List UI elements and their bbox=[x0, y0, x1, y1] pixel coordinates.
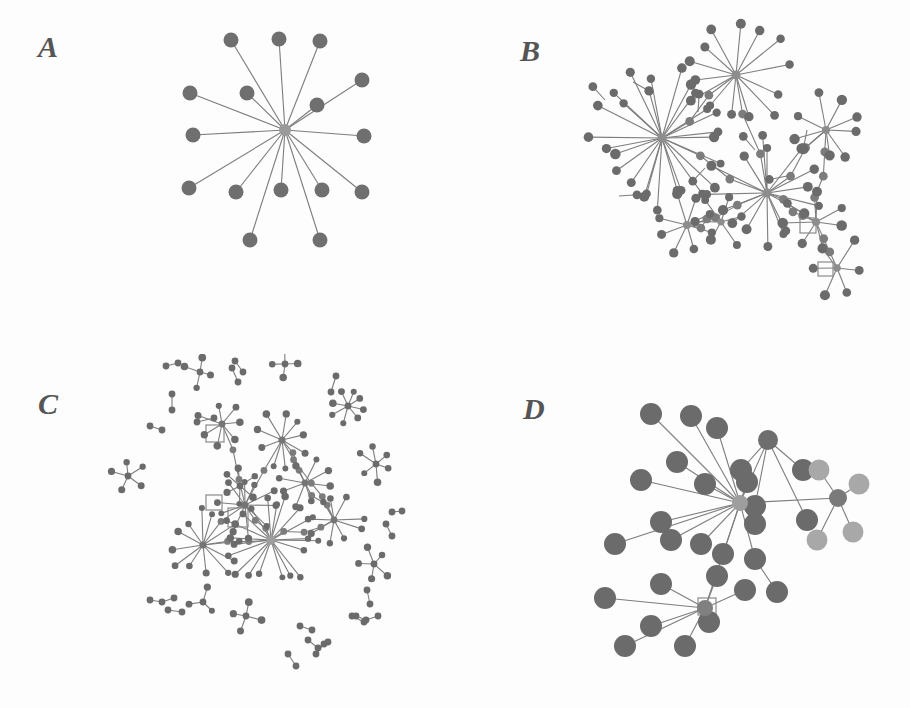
graph-node bbox=[327, 495, 334, 502]
graph-node bbox=[604, 533, 626, 555]
graph-node bbox=[231, 436, 239, 444]
graph-node bbox=[224, 471, 231, 478]
graph-edge bbox=[661, 503, 740, 522]
graph-node bbox=[294, 419, 300, 425]
graph-node bbox=[640, 403, 662, 425]
graph-edge bbox=[271, 540, 300, 577]
graph-node bbox=[619, 99, 627, 107]
graph-hub-node bbox=[732, 495, 748, 511]
graph-node bbox=[614, 635, 636, 657]
graph-node bbox=[147, 597, 154, 604]
panel-b-edges bbox=[588, 24, 859, 295]
graph-node bbox=[309, 627, 316, 634]
graph-node bbox=[610, 89, 618, 97]
graph-edge bbox=[662, 138, 715, 188]
graph-edge bbox=[707, 193, 767, 194]
graph-hub-node bbox=[279, 124, 291, 136]
graph-node bbox=[836, 220, 847, 231]
graph-node bbox=[207, 371, 214, 378]
graph-node bbox=[175, 360, 182, 367]
graph-node bbox=[369, 443, 375, 449]
graph-node bbox=[236, 476, 243, 483]
graph-node bbox=[810, 164, 819, 173]
graph-node bbox=[279, 374, 286, 381]
graph-node bbox=[261, 467, 268, 474]
graph-node bbox=[276, 475, 283, 482]
graph-hub-node bbox=[763, 189, 772, 198]
graph-node bbox=[123, 459, 129, 465]
graph-edge bbox=[732, 75, 736, 114]
graph-node bbox=[172, 562, 179, 569]
graph-node bbox=[727, 110, 736, 119]
graph-node bbox=[685, 56, 695, 66]
graph-node bbox=[356, 395, 363, 402]
graph-node bbox=[660, 529, 682, 551]
graph-node bbox=[300, 431, 307, 438]
graph-node bbox=[737, 212, 745, 220]
graph-node bbox=[824, 150, 834, 160]
graph-node bbox=[325, 639, 332, 646]
graph-node bbox=[269, 361, 276, 368]
graph-node bbox=[389, 509, 396, 516]
graph-edge bbox=[598, 106, 662, 138]
graph-edge bbox=[662, 85, 691, 138]
graph-node bbox=[328, 389, 335, 396]
graph-node bbox=[685, 117, 694, 126]
graph-edge bbox=[202, 508, 203, 545]
graph-node bbox=[240, 511, 247, 518]
graph-node bbox=[742, 224, 752, 234]
graph-node bbox=[263, 410, 271, 418]
graph-edge bbox=[798, 116, 826, 130]
graph-node bbox=[282, 361, 289, 368]
graph-node bbox=[198, 354, 206, 361]
graph-node bbox=[199, 505, 205, 511]
graph-node bbox=[712, 543, 734, 565]
graph-edge bbox=[203, 545, 228, 573]
graph-edge bbox=[245, 505, 276, 506]
graph-node bbox=[644, 86, 653, 95]
graph-node bbox=[385, 465, 392, 472]
graph-node bbox=[357, 129, 372, 144]
graph-node bbox=[755, 26, 764, 35]
graph-node bbox=[375, 613, 382, 620]
graph-hub-node bbox=[241, 501, 248, 508]
graph-node bbox=[770, 111, 779, 120]
graph-node bbox=[706, 25, 716, 35]
graph-node bbox=[315, 538, 321, 544]
graph-node bbox=[218, 510, 224, 516]
graph-hub-node bbox=[829, 489, 847, 507]
graph-node bbox=[326, 482, 333, 489]
graph-edge bbox=[189, 545, 203, 566]
graph-node bbox=[690, 245, 699, 254]
graph-node bbox=[169, 407, 176, 414]
graph-node bbox=[216, 403, 222, 409]
graph-node bbox=[690, 217, 699, 226]
graph-node bbox=[763, 242, 772, 251]
panel-c-graph bbox=[0, 354, 455, 708]
graph-edge bbox=[334, 497, 346, 520]
graph-node bbox=[264, 523, 270, 529]
graph-node bbox=[214, 499, 221, 506]
graph-node bbox=[292, 503, 299, 510]
graph-node bbox=[236, 419, 243, 426]
graph-node bbox=[240, 369, 247, 376]
graph-node bbox=[798, 239, 807, 248]
graph-edge bbox=[203, 521, 221, 545]
graph-node bbox=[163, 363, 170, 370]
graph-node bbox=[225, 570, 231, 576]
graph-node bbox=[594, 587, 616, 609]
graph-node bbox=[125, 473, 132, 480]
graph-node bbox=[204, 583, 211, 590]
graph-node bbox=[706, 565, 728, 587]
graph-node bbox=[819, 234, 828, 243]
panel-a: A bbox=[0, 0, 455, 354]
graph-hub-node bbox=[199, 541, 206, 548]
graph-node bbox=[340, 420, 346, 426]
graph-edge bbox=[657, 138, 662, 210]
graph-node bbox=[809, 460, 830, 481]
graph-node bbox=[345, 403, 352, 410]
graph-node bbox=[819, 172, 828, 181]
graph-node bbox=[357, 450, 363, 456]
graph-edge bbox=[616, 138, 662, 171]
graph-node bbox=[383, 521, 390, 528]
